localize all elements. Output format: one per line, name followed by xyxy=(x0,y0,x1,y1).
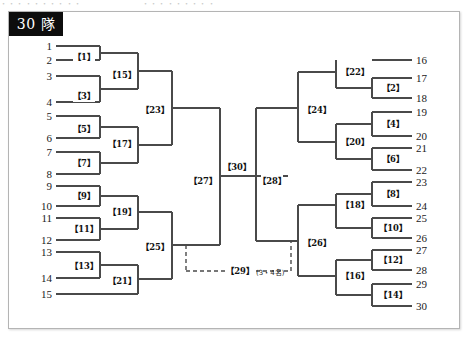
seed-label-left: 5 xyxy=(47,110,53,122)
seed-label-left: 6 xyxy=(47,132,53,144)
seed-label-left: 11 xyxy=(41,212,52,224)
match-label: 【14】 xyxy=(379,290,407,300)
match-label: 【4】 xyxy=(382,119,404,129)
seed-label-right: 23 xyxy=(416,176,428,188)
match-label: 【1】 xyxy=(73,52,95,62)
match-label: 【22】 xyxy=(341,67,369,77)
match-label: 【12】 xyxy=(379,255,407,265)
seed-label-left: 14 xyxy=(41,272,53,284)
match-label: 【20】 xyxy=(341,137,369,147)
seed-label-right: 17 xyxy=(416,72,428,84)
match-label: 【13】 xyxy=(70,261,98,271)
seed-label-left: 2 xyxy=(47,54,53,66)
seed-label-right: 26 xyxy=(416,232,428,244)
seed-label-left: 15 xyxy=(41,288,53,300)
match-label: 【18】 xyxy=(341,200,369,210)
match-label: 【10】 xyxy=(379,223,407,233)
seed-label-right: 30 xyxy=(416,300,428,312)
seed-label-right: 16 xyxy=(416,54,428,66)
seed-label-right: 19 xyxy=(416,106,428,118)
match-label: 【26】 xyxy=(303,238,331,248)
seed-label-left: 13 xyxy=(41,246,53,258)
match-label: 【5】 xyxy=(73,124,95,134)
match-label: 【24】 xyxy=(303,105,331,115)
seed-label-right: 21 xyxy=(416,142,427,154)
match-label: 【3】 xyxy=(73,91,95,101)
match-label: 【17】 xyxy=(108,139,136,149)
match-label: 【25】 xyxy=(141,242,169,252)
right-seed-labels: 161718192021222324252627282930 xyxy=(416,54,428,312)
bracket-title-badge: 30 隊 xyxy=(9,12,63,36)
match-label: 【2】 xyxy=(382,83,404,93)
seed-label-right: 25 xyxy=(416,212,428,224)
seed-label-left: 4 xyxy=(47,96,53,108)
seed-label-right: 29 xyxy=(416,278,428,290)
third-place-match-note: (3・4名) xyxy=(256,268,285,277)
match-label: 【7】 xyxy=(73,158,95,168)
match-label: 【30】 xyxy=(223,162,251,172)
seed-label-left: 10 xyxy=(41,200,53,212)
seed-label-right: 27 xyxy=(416,244,428,256)
seed-label-left: 7 xyxy=(47,146,53,158)
bracket-page: ・・・・・・・・・・・・・・・・・・・ 30 隊 123456789101112… xyxy=(0,0,468,340)
match-label: 【23】 xyxy=(141,105,169,115)
tournament-bracket-diagram: 123456789101112131415 161718192021222324… xyxy=(0,0,468,340)
match-label: 【6】 xyxy=(382,154,404,164)
match-label: 【9】 xyxy=(73,191,95,201)
seed-label-left: 9 xyxy=(47,180,53,192)
seed-label-right: 24 xyxy=(416,200,428,212)
seed-label-left: 8 xyxy=(47,168,53,180)
seed-label-right: 22 xyxy=(416,164,427,176)
match-label: 【15】 xyxy=(108,70,136,80)
match-label: 【21】 xyxy=(108,276,136,286)
seed-label-right: 20 xyxy=(416,130,428,142)
match-label: 【16】 xyxy=(341,271,369,281)
match-label: 【11】 xyxy=(70,224,98,234)
seed-label-right: 28 xyxy=(416,264,428,276)
third-place-match-label: 【29】(3・4名) xyxy=(226,265,285,277)
match-label: 【19】 xyxy=(108,207,136,217)
match-label: 【27】 xyxy=(189,176,217,186)
match-label: 【8】 xyxy=(382,189,404,199)
seed-label-left: 3 xyxy=(47,70,53,82)
third-place-match-number: 【29】 xyxy=(226,266,254,276)
match-label: 【28】 xyxy=(258,176,286,186)
seed-label-left: 12 xyxy=(41,234,52,246)
left-seed-labels: 123456789101112131415 xyxy=(41,40,53,300)
seed-label-right: 18 xyxy=(416,92,428,104)
seed-label-left: 1 xyxy=(47,40,53,52)
